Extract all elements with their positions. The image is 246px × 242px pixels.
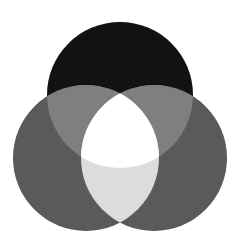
venn-diagram-canvas	[0, 0, 246, 242]
venn-diagram	[0, 0, 246, 242]
